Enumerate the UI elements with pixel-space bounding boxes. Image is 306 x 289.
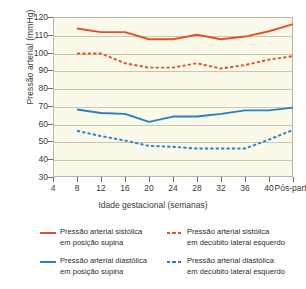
legend-line-icon-diastolic-decubito — [167, 257, 183, 267]
series-line-2 — [77, 108, 293, 122]
y-tick-label-90: 90 — [24, 65, 48, 75]
legend: Pressão arterial sistólica em posição su… — [0, 224, 306, 286]
legend-item-diastolic-supina: Pressão arterial diastólica em posição s… — [40, 255, 160, 277]
y-tick-label-120: 120 — [24, 12, 48, 22]
x-tick-label-10: Pós-parto — [275, 183, 306, 193]
x-tick-mark-7 — [221, 177, 222, 182]
blood-pressure-chart: Pressão arterial (mmHg) 1201101009080706… — [0, 0, 306, 289]
x-tick-mark-3 — [125, 177, 126, 182]
x-tick-label-2: 12 — [96, 183, 105, 193]
x-tick-mark-9 — [269, 177, 270, 182]
y-tick-label-70: 70 — [24, 101, 48, 111]
y-tick-label-40: 40 — [24, 154, 48, 164]
x-tick-mark-6 — [197, 177, 198, 182]
x-tick-label-7: 32 — [216, 183, 225, 193]
legend-item-systolic-decubito: Pressão arterial sistólica em decúbito l… — [167, 226, 306, 248]
legend-line-icon-systolic-decubito — [167, 228, 183, 238]
y-tick-label-80: 80 — [24, 83, 48, 93]
x-tick-mark-5 — [173, 177, 174, 182]
x-tick-label-0: 4 — [51, 183, 56, 193]
y-tick-label-30: 30 — [24, 172, 48, 182]
x-tick-mark-4 — [149, 177, 150, 182]
legend-label-diastolic-supina: Pressão arterial diastólica em posição s… — [60, 255, 147, 277]
x-tick-label-6: 28 — [192, 183, 201, 193]
x-tick-mark-1 — [77, 177, 78, 182]
x-tick-mark-10 — [293, 177, 294, 182]
series-line-3 — [77, 130, 293, 149]
y-tick-label-60: 60 — [24, 119, 48, 129]
x-tick-mark-8 — [245, 177, 246, 182]
legend-line-icon-diastolic-supina — [40, 257, 56, 267]
x-tick-label-8: 36 — [240, 183, 249, 193]
x-tick-mark-0 — [53, 177, 54, 182]
x-axis-title: Idade gestacional (semanas) — [0, 200, 306, 210]
x-tick-label-5: 24 — [168, 183, 177, 193]
x-tick-label-3: 16 — [120, 183, 129, 193]
y-tick-label-100: 100 — [24, 48, 48, 58]
y-tick-label-110: 110 — [24, 30, 48, 40]
y-tick-label-50: 50 — [24, 136, 48, 146]
series-lines — [53, 17, 293, 177]
x-tick-label-9: 40 — [264, 183, 273, 193]
legend-item-diastolic-decubito: Pressão arterial diastólica em decúbito … — [167, 255, 306, 277]
x-tick-label-1: 8 — [75, 183, 80, 193]
series-line-1 — [77, 53, 293, 68]
series-line-0 — [77, 24, 293, 39]
x-tick-mark-2 — [101, 177, 102, 182]
legend-line-icon-systolic-supina — [40, 228, 56, 238]
legend-label-systolic-supina: Pressão arterial sistólica em posição su… — [60, 226, 142, 248]
x-tick-label-4: 20 — [144, 183, 153, 193]
legend-label-systolic-decubito: Pressão arterial sistólica em decúbito l… — [187, 226, 285, 248]
legend-label-diastolic-decubito: Pressão arterial diastólica em decúbito … — [187, 255, 285, 277]
legend-item-systolic-supina: Pressão arterial sistólica em posição su… — [40, 226, 160, 248]
